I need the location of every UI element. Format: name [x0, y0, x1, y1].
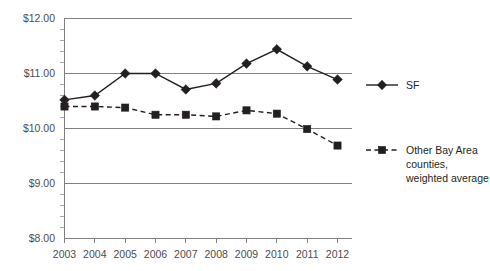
- legend-entry-other-bay-area: Other Bay Area counties, weighted averag…: [366, 144, 489, 184]
- data-series-layer: [60, 45, 343, 150]
- data-point-marker: [211, 79, 221, 89]
- y-tick-label: $11.00: [24, 67, 55, 79]
- legend-entry-sf: SF: [366, 79, 419, 91]
- x-tick-label: 2009: [235, 248, 259, 260]
- legend-label-other-line1: Other Bay Area: [406, 144, 478, 156]
- x-tick-label: 2011: [296, 248, 319, 260]
- legend-label-other-line3: weighted average: [405, 172, 489, 184]
- legend-diamond-marker: [377, 80, 386, 90]
- data-point-marker: [151, 69, 161, 79]
- data-point-marker: [273, 110, 280, 117]
- data-point-marker: [181, 85, 191, 95]
- x-tick-label: 2012: [326, 248, 350, 260]
- x-tick-labels: 2003 2004 2005 2006 2007 2008 2009 2010 …: [53, 248, 350, 260]
- y-tick-label: $10.00: [23, 122, 55, 134]
- data-point-marker: [304, 125, 311, 132]
- x-tick-label: 2004: [83, 248, 107, 260]
- data-point-marker: [334, 142, 341, 149]
- data-point-marker: [182, 111, 189, 118]
- data-point-marker: [120, 69, 130, 79]
- y-tick-label: $9.00: [29, 177, 55, 189]
- series-sf: [60, 45, 343, 105]
- data-point-marker: [243, 107, 250, 114]
- data-point-marker: [91, 103, 98, 110]
- chart-legend: SF Other Bay Area counties, weighted ave…: [366, 79, 489, 184]
- x-tick-label: 2008: [205, 248, 229, 260]
- series-line: [65, 107, 338, 146]
- data-point-marker: [242, 59, 252, 69]
- data-point-marker: [152, 111, 159, 118]
- data-point-marker: [272, 45, 282, 55]
- chart-plot-area: $12.00 $11.00 $10.00 $9.00 $8.00 2003 20…: [0, 0, 490, 271]
- y-tick-labels: $12.00 $11.00 $10.00 $9.00 $8.00: [23, 12, 55, 244]
- data-point-marker: [213, 113, 220, 120]
- data-point-marker: [90, 91, 100, 101]
- y-tick-label: $12.00: [23, 12, 55, 24]
- legend-label-other-line2: counties,: [406, 158, 448, 170]
- x-tick-label: 2006: [144, 248, 168, 260]
- x-tick-label: 2007: [174, 248, 198, 260]
- y-axis-minor-ticks: [60, 30, 64, 228]
- legend-label-sf: SF: [406, 79, 419, 91]
- data-point-marker: [333, 75, 343, 85]
- line-chart: $12.00 $11.00 $10.00 $9.00 $8.00 2003 20…: [0, 0, 490, 271]
- series-line: [65, 49, 338, 100]
- x-tick-label: 2005: [114, 248, 138, 260]
- series-other-bay-area: [61, 103, 341, 149]
- data-point-marker: [61, 103, 68, 110]
- x-tick-label: 2010: [265, 248, 289, 260]
- data-point-marker: [122, 104, 129, 111]
- legend-square-marker: [378, 146, 385, 153]
- x-tick-label: 2003: [53, 248, 77, 260]
- data-point-marker: [302, 62, 312, 72]
- y-tick-label: $8.00: [29, 232, 55, 244]
